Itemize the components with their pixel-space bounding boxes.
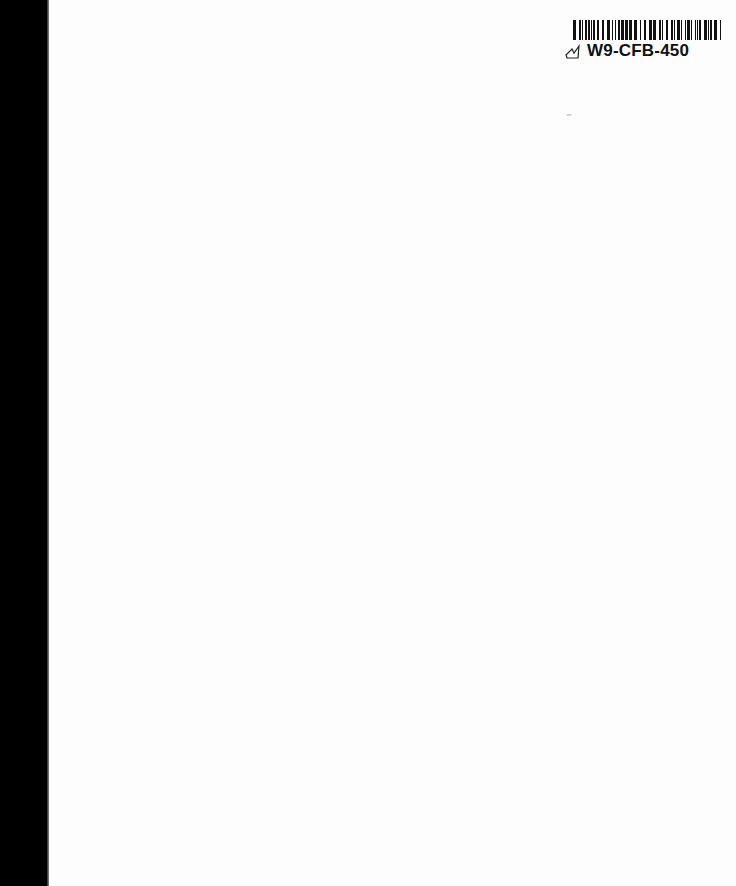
document-page [49, 0, 736, 886]
barcode [573, 20, 723, 40]
barcode-number: W9-CFB-450 [587, 41, 689, 61]
scan-speck [566, 114, 572, 116]
handwritten-check-mark-icon [564, 44, 584, 62]
barcode-label: W9-CFB-450 [563, 14, 733, 64]
